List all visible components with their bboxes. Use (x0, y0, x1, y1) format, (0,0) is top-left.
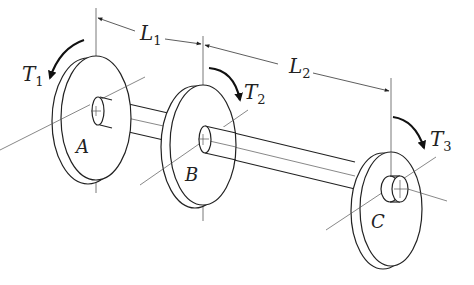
label-l2: L2 (288, 54, 311, 81)
shaft-torsion-diagram: L1 L2 T1 T2 T3 A B C (0, 0, 474, 285)
label-t3: T3 (430, 127, 452, 154)
label-disk-c: C (371, 211, 385, 232)
label-disk-a: A (74, 136, 89, 157)
label-t1: T1 (22, 62, 44, 89)
label-t2: T2 (244, 80, 266, 107)
torque-arrow-t3 (393, 117, 424, 148)
disk-b (140, 85, 248, 208)
label-disk-b: B (184, 164, 198, 185)
label-l1: L1 (139, 21, 162, 48)
diagram-svg: L1 L2 T1 T2 T3 A B C (0, 0, 474, 285)
